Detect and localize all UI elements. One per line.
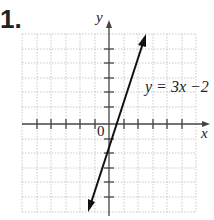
y-axis-label: y [94,9,103,25]
coordinate-plane: y x 0 y = 3x −2 [0,0,214,220]
origin-label: 0 [97,123,105,139]
y-axis [104,20,114,216]
equation-label: y = 3x −2 [143,78,209,96]
x-axis-label: x [200,125,208,141]
